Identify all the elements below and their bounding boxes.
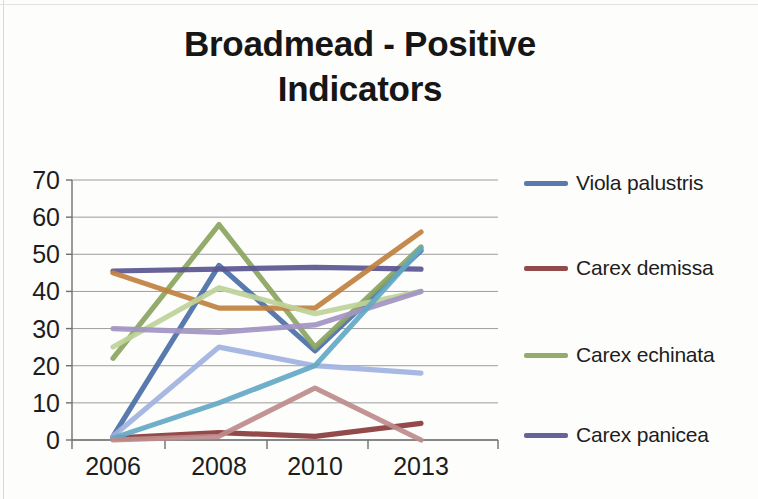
legend-label: Carex echinata	[576, 343, 714, 367]
legend-item[interactable]: Carex demissa	[524, 253, 713, 283]
y-tick-label: 20	[32, 352, 60, 380]
x-tick-labels: 2006200820102013	[85, 452, 449, 480]
legend-item[interactable]: Carex panicea	[524, 420, 709, 450]
series-lines	[113, 225, 421, 440]
y-tick-label: 50	[32, 240, 60, 268]
x-tick-label: 2010	[287, 452, 343, 480]
y-tick-label: 40	[32, 277, 60, 305]
chart-page: Broadmead - Positive Indicators 70605040…	[0, 0, 758, 499]
y-tick-label: 60	[32, 203, 60, 231]
legend-swatch-icon	[524, 433, 568, 438]
legend-item[interactable]: Viola palustris	[524, 168, 703, 198]
legend-item[interactable]: Carex echinata	[524, 340, 714, 370]
y-tick-label: 70	[32, 166, 60, 194]
series-line	[113, 251, 421, 437]
legend-swatch-icon	[524, 181, 568, 186]
y-tick-labels: 706050403020100	[32, 166, 60, 454]
legend-label: Carex panicea	[576, 423, 709, 447]
legend-swatch-icon	[524, 353, 568, 358]
x-tick-label: 2008	[191, 452, 247, 480]
y-tick-label: 10	[32, 389, 60, 417]
x-tick-label: 2013	[393, 452, 449, 480]
legend-swatch-icon	[524, 266, 568, 271]
x-tick-label: 2006	[85, 452, 141, 480]
legend-label: Viola palustris	[576, 171, 703, 195]
y-tick-label: 30	[32, 315, 60, 343]
y-tick-label: 0	[46, 426, 60, 454]
legend-label: Carex demissa	[576, 256, 713, 280]
chart-legend: Viola palustrisCarex demissaCarex echina…	[524, 168, 756, 448]
